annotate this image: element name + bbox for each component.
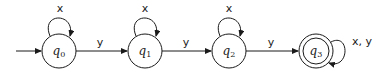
edge-q1-q2-label: y xyxy=(183,36,190,49)
loop-q2-label: x xyxy=(226,2,233,15)
automaton-diagram: q0 x y q1 x y q2 x y q3 x, y xyxy=(0,0,382,75)
loop-q0-label: x xyxy=(57,2,64,15)
state-q0-subscript: 0 xyxy=(60,50,65,59)
loop-q1 xyxy=(134,18,156,36)
state-q3-subscript: 3 xyxy=(317,50,322,59)
edge-q2-q3-label: y xyxy=(268,36,275,49)
state-q2-subscript: 2 xyxy=(230,50,235,59)
state-q3: q3 xyxy=(299,34,333,68)
state-q1: q1 xyxy=(128,34,162,68)
loop-q0 xyxy=(48,18,70,36)
edge-q0-q1-label: y xyxy=(97,36,104,49)
loop-q1-label: x xyxy=(142,2,149,15)
loop-q2 xyxy=(218,18,240,36)
state-q0: q0 xyxy=(42,34,76,68)
state-q2: q2 xyxy=(212,34,246,68)
loop-q3-label: x, y xyxy=(352,35,373,48)
state-q1-subscript: 1 xyxy=(146,50,151,59)
